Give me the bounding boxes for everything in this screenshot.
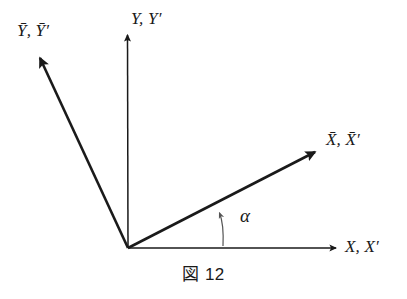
- y-bar-axis-line: [40, 58, 128, 248]
- alpha-angle-label: α: [240, 206, 250, 225]
- figure-caption: 図 12: [0, 266, 407, 283]
- axis-label-x-bar: X̄, X̄′: [326, 131, 360, 148]
- axis-label-x: X, X′: [345, 238, 379, 255]
- alpha-angle-arc: [220, 213, 224, 246]
- axis-label-y-bar: Ȳ, Ȳ′: [17, 22, 49, 39]
- x-bar-axis-line: [128, 152, 315, 248]
- y-axis-line: [128, 35, 129, 248]
- figure-container: Ȳ, Ȳ′ Y, Y′ X̄, X̄′ X, X′ α 図 12: [0, 0, 407, 299]
- axis-label-y: Y, Y′: [131, 10, 162, 27]
